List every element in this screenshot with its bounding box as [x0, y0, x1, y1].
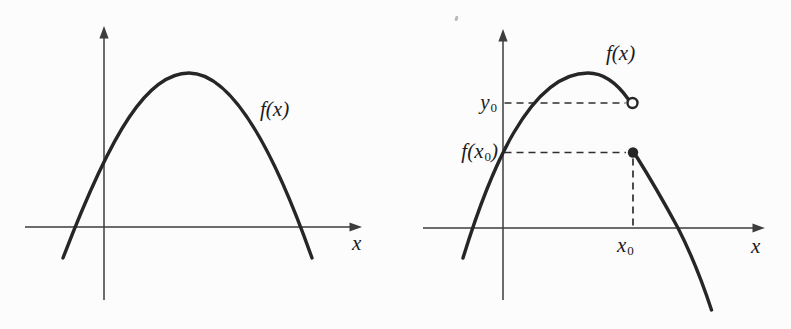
left-y-axis-arrow-icon: [99, 26, 108, 39]
y0-label-base: y: [480, 90, 489, 114]
x0-label: x0: [617, 233, 634, 257]
x0-label-base: x: [617, 233, 626, 257]
fx0-label-subscript: 0: [484, 149, 491, 164]
right-x-axis-label: x: [751, 234, 760, 258]
left-curve-label: f(x): [260, 97, 289, 121]
left-x-axis-label: x: [352, 231, 361, 255]
right-graph-panel: [423, 29, 765, 310]
right-curve-right-branch: [637, 157, 712, 311]
y0-label-subscript: 0: [490, 100, 497, 115]
right-curve-label: f(x): [606, 41, 635, 65]
filled-dot-point: [628, 147, 638, 157]
y0-label: y0: [480, 90, 497, 114]
right-x-axis-arrow-icon: [753, 223, 766, 232]
graphs-canvas: [0, 0, 791, 329]
fx0-label-pre: f(x: [461, 139, 483, 163]
continuity-figure: f(x) x f(x) y0 f(x0) x0 x: [0, 0, 791, 329]
fx0-label-post: ): [491, 139, 498, 163]
x0-label-subscript: 0: [627, 243, 634, 258]
left-graph-panel: [25, 26, 362, 300]
open-circle-point: [628, 98, 638, 108]
right-y-axis-arrow-icon: [498, 29, 507, 42]
fx0-label: f(x0): [461, 139, 498, 163]
